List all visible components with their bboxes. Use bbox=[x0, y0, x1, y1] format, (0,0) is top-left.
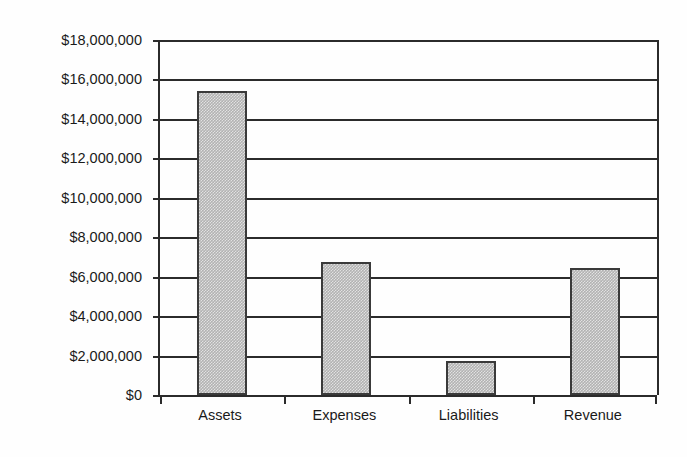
bar-slot-revenue bbox=[533, 40, 657, 395]
x-axis-label-liabilities: Liabilities bbox=[407, 408, 531, 438]
bar-assets[interactable] bbox=[197, 91, 247, 396]
y-axis-tick bbox=[153, 40, 160, 42]
y-axis-label: $10,000,000 bbox=[0, 191, 142, 206]
y-axis-tick bbox=[153, 356, 160, 358]
y-axis-tick bbox=[153, 395, 160, 397]
y-axis-tick bbox=[153, 158, 160, 160]
y-axis-label: $2,000,000 bbox=[0, 348, 142, 363]
bar-slot-assets bbox=[160, 40, 284, 395]
x-axis-tick bbox=[284, 395, 286, 404]
y-axis-tick bbox=[153, 237, 160, 239]
y-axis-label: $14,000,000 bbox=[0, 112, 142, 127]
bar-slot-liabilities bbox=[409, 40, 533, 395]
y-axis-label: $18,000,000 bbox=[0, 33, 142, 48]
x-axis-tick bbox=[160, 395, 162, 404]
x-axis-tick bbox=[409, 395, 411, 404]
bars-layer bbox=[160, 40, 657, 395]
x-axis-label-group: Assets Expenses Liabilities Revenue bbox=[158, 408, 655, 438]
y-axis-label: $12,000,000 bbox=[0, 151, 142, 166]
y-axis-tick bbox=[153, 198, 160, 200]
x-axis-label-expenses: Expenses bbox=[282, 408, 406, 438]
x-axis-label-revenue: Revenue bbox=[531, 408, 655, 438]
x-axis-tick bbox=[655, 395, 657, 404]
bar-chart-figure: $18,000,000 $16,000,000 $14,000,000 $12,… bbox=[0, 0, 687, 457]
y-axis-label: $0 bbox=[0, 388, 142, 403]
bar-slot-expenses bbox=[284, 40, 408, 395]
bar-revenue[interactable] bbox=[570, 268, 620, 395]
y-axis-tick bbox=[153, 316, 160, 318]
y-axis-tick bbox=[153, 277, 160, 279]
y-axis-label: $16,000,000 bbox=[0, 72, 142, 87]
y-axis-tick bbox=[153, 79, 160, 81]
y-axis-label: $4,000,000 bbox=[0, 309, 142, 324]
y-axis-label: $6,000,000 bbox=[0, 269, 142, 284]
y-axis-label: $8,000,000 bbox=[0, 230, 142, 245]
x-axis-tick bbox=[533, 395, 535, 404]
y-axis-tick bbox=[153, 119, 160, 121]
y-axis-label-group: $18,000,000 $16,000,000 $14,000,000 $12,… bbox=[0, 0, 148, 457]
x-axis-label-assets: Assets bbox=[158, 408, 282, 438]
bar-expenses[interactable] bbox=[321, 262, 371, 395]
plot-area bbox=[158, 40, 659, 395]
bar-liabilities[interactable] bbox=[446, 361, 496, 396]
